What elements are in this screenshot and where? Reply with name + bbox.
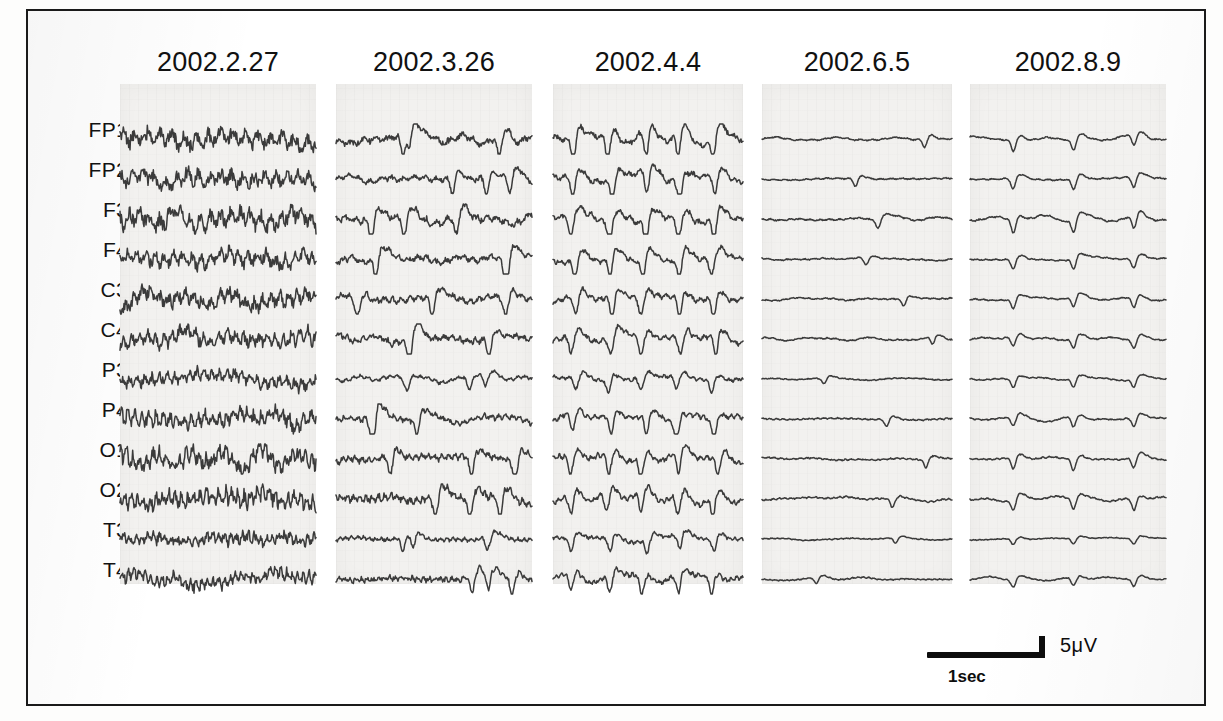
channel-label-p3: P3 bbox=[64, 358, 128, 382]
eeg-trace-p3-2002-4-4 bbox=[553, 371, 743, 394]
eeg-trace-t3-2002-6-5 bbox=[762, 536, 952, 543]
channel-label-o2: O2 bbox=[64, 478, 128, 502]
eeg-trace-p4-2002-3-26 bbox=[336, 404, 532, 434]
eeg-trace-o2-2002-2-27 bbox=[120, 484, 316, 513]
eeg-trace-t3-2002-8-9 bbox=[970, 536, 1166, 545]
eeg-trace-p4-2002-4-4 bbox=[553, 408, 743, 434]
figure-frame: 2002.2.272002.3.262002.4.42002.6.52002.8… bbox=[26, 9, 1206, 706]
date-header-2002-8-9: 2002.8.9 bbox=[958, 47, 1178, 78]
date-header-2002-4-4: 2002.4.4 bbox=[538, 47, 758, 78]
eeg-trace-p3-2002-3-26 bbox=[336, 370, 532, 391]
eeg-trace-p4-2002-2-27 bbox=[120, 404, 316, 434]
eeg-trace-c4-2002-2-27 bbox=[120, 324, 316, 351]
eeg-trace-c3-2002-8-9 bbox=[970, 293, 1166, 309]
eeg-trace-fp1-2002-8-9 bbox=[970, 132, 1166, 152]
eeg-trace-o1-2002-3-26 bbox=[336, 447, 532, 474]
eeg-trace-t4-2002-4-4 bbox=[553, 567, 743, 594]
eeg-trace-o2-2002-4-4 bbox=[553, 485, 743, 514]
scale-bar-amplitude-label: 5μV bbox=[1060, 634, 1098, 657]
eeg-traces-2002-8-9 bbox=[970, 84, 1166, 584]
eeg-trace-fp1-2002-3-26 bbox=[336, 124, 532, 154]
eeg-trace-f3-2002-3-26 bbox=[336, 204, 532, 234]
channel-label-c4: C4 bbox=[64, 318, 128, 342]
eeg-trace-fp2-2002-6-5 bbox=[762, 175, 952, 186]
eeg-trace-fp2-2002-4-4 bbox=[553, 164, 743, 194]
eeg-trace-t4-2002-3-26 bbox=[336, 565, 532, 594]
eeg-trace-c3-2002-2-27 bbox=[120, 284, 316, 314]
eeg-trace-fp2-2002-2-27 bbox=[120, 166, 316, 192]
eeg-panel-2002-8-9 bbox=[970, 84, 1166, 584]
eeg-trace-t3-2002-4-4 bbox=[553, 530, 743, 554]
eeg-panel-2002-6-5 bbox=[762, 84, 952, 584]
eeg-trace-t4-2002-8-9 bbox=[970, 575, 1166, 587]
channel-label-f3: F3 bbox=[64, 198, 128, 222]
eeg-trace-c3-2002-3-26 bbox=[336, 287, 532, 314]
eeg-trace-o2-2002-6-5 bbox=[762, 496, 952, 508]
eeg-trace-o1-2002-4-4 bbox=[553, 445, 743, 474]
channel-label-fp1: FP1 bbox=[64, 118, 128, 142]
eeg-trace-c3-2002-4-4 bbox=[553, 287, 743, 314]
eeg-trace-p3-2002-6-5 bbox=[762, 376, 952, 384]
eeg-trace-c4-2002-3-26 bbox=[336, 324, 532, 354]
channel-label-p4: P4 bbox=[64, 398, 128, 422]
eeg-trace-o1-2002-8-9 bbox=[970, 452, 1166, 470]
date-header-2002-3-26: 2002.3.26 bbox=[324, 47, 544, 78]
eeg-trace-fp1-2002-2-27 bbox=[120, 125, 316, 152]
channel-label-fp2: FP2 bbox=[64, 158, 128, 182]
eeg-trace-f4-2002-3-26 bbox=[336, 245, 532, 274]
eeg-trace-o2-2002-3-26 bbox=[336, 484, 532, 514]
channel-label-o1: O1 bbox=[64, 438, 128, 462]
eeg-trace-o1-2002-2-27 bbox=[120, 444, 316, 474]
date-header-2002-6-5: 2002.6.5 bbox=[747, 47, 967, 78]
date-header-2002-2-27: 2002.2.27 bbox=[108, 47, 328, 78]
eeg-trace-f4-2002-4-4 bbox=[553, 245, 743, 274]
eeg-trace-t3-2002-2-27 bbox=[120, 530, 316, 547]
scale-bar-time-line bbox=[927, 652, 1045, 658]
eeg-trace-f3-2002-6-5 bbox=[762, 214, 952, 229]
eeg-trace-p4-2002-6-5 bbox=[762, 416, 952, 426]
eeg-trace-c4-2002-6-5 bbox=[762, 335, 952, 344]
eeg-panel-2002-4-4 bbox=[553, 84, 743, 584]
eeg-trace-p3-2002-2-27 bbox=[120, 366, 316, 394]
eeg-trace-f3-2002-4-4 bbox=[553, 205, 743, 234]
scale-bar-time-label: 1sec bbox=[948, 667, 986, 687]
eeg-trace-o2-2002-8-9 bbox=[970, 493, 1166, 510]
eeg-trace-fp1-2002-4-4 bbox=[553, 124, 743, 154]
channel-label-t4: T4 bbox=[64, 558, 128, 582]
eeg-trace-p3-2002-8-9 bbox=[970, 374, 1166, 387]
eeg-panel-2002-2-27 bbox=[120, 84, 316, 584]
eeg-traces-2002-2-27 bbox=[120, 84, 316, 584]
scale-bar-amplitude-tick bbox=[1039, 636, 1045, 658]
eeg-trace-c3-2002-6-5 bbox=[762, 296, 952, 306]
eeg-trace-p4-2002-8-9 bbox=[970, 413, 1166, 427]
eeg-traces-2002-4-4 bbox=[553, 84, 743, 584]
eeg-trace-o1-2002-6-5 bbox=[762, 456, 952, 468]
eeg-trace-fp2-2002-8-9 bbox=[970, 173, 1166, 190]
channel-label-f4: F4 bbox=[64, 238, 128, 262]
eeg-panel-2002-3-26 bbox=[336, 84, 532, 584]
eeg-trace-f4-2002-6-5 bbox=[762, 256, 952, 265]
eeg-trace-t4-2002-2-27 bbox=[120, 567, 316, 594]
eeg-trace-c4-2002-4-4 bbox=[553, 324, 743, 354]
eeg-trace-fp1-2002-6-5 bbox=[762, 135, 952, 148]
eeg-traces-2002-6-5 bbox=[762, 84, 952, 584]
eeg-trace-fp2-2002-3-26 bbox=[336, 167, 532, 194]
eeg-trace-t3-2002-3-26 bbox=[336, 530, 532, 551]
channel-label-t3: T3 bbox=[64, 518, 128, 542]
eeg-trace-f4-2002-8-9 bbox=[970, 253, 1166, 269]
channel-label-c3: C3 bbox=[64, 278, 128, 302]
eeg-trace-t4-2002-6-5 bbox=[762, 575, 952, 583]
eeg-trace-f3-2002-2-27 bbox=[120, 205, 316, 234]
eeg-traces-2002-3-26 bbox=[336, 84, 532, 584]
eeg-trace-f4-2002-2-27 bbox=[120, 245, 316, 272]
eeg-trace-f3-2002-8-9 bbox=[970, 211, 1166, 233]
eeg-trace-c4-2002-8-9 bbox=[970, 334, 1166, 349]
